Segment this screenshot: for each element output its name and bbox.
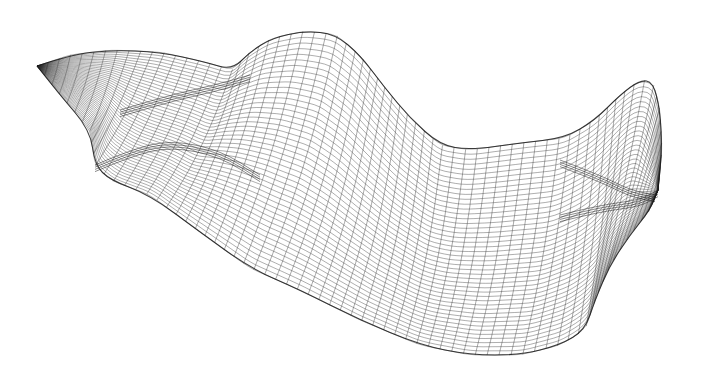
mesh-cross-lines [37,32,662,356]
wireframe-mesh [0,0,703,374]
mesh-longitudinal-lines [37,32,662,355]
wireframe-canvas [0,0,703,374]
